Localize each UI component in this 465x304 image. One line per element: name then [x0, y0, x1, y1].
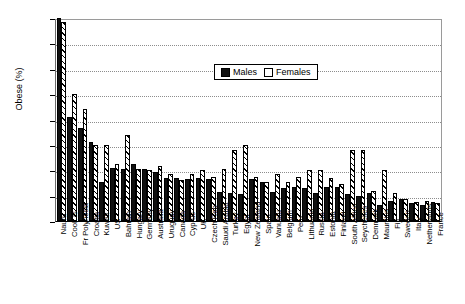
bar-group [216, 20, 227, 221]
legend-label-males: Males [233, 67, 257, 77]
plot-area [55, 19, 442, 222]
bar-group [387, 20, 398, 221]
bar-females-uk [200, 170, 205, 221]
bar-group [227, 20, 238, 221]
bar-females-us [115, 164, 120, 221]
bar-group [430, 20, 441, 221]
bar-group [88, 20, 99, 221]
bar-group [184, 20, 195, 221]
bar-group [238, 20, 249, 221]
x-tick-cell: US [109, 224, 120, 304]
chart-legend: Males Females [214, 64, 318, 80]
x-tick-label: France [437, 212, 445, 236]
x-tick-cell: Italy [410, 224, 421, 304]
x-tick-cell: Mauritius [378, 224, 389, 304]
x-tick-cell: Finland [335, 224, 346, 304]
x-tick-cell: Spain [259, 224, 270, 304]
x-tick-cell: Croatia [87, 224, 98, 304]
bar-group [302, 20, 313, 221]
x-tick-cell: Czech Rep [206, 224, 217, 304]
bar-group [270, 20, 281, 221]
bar-females-turkey [232, 150, 237, 221]
x-tick-cell: Estonia [324, 224, 335, 304]
bar-group [345, 20, 356, 221]
y-tick-mark-0 [50, 222, 55, 223]
x-tick-cell: Nauru [55, 224, 66, 304]
x-tick-cell: Vanuatu [270, 224, 281, 304]
bar-females-nauru [61, 22, 66, 221]
x-tick-cell: South Africa [345, 224, 356, 304]
bar-group [56, 20, 67, 221]
bar-group [377, 20, 388, 221]
bar-females-egypt [243, 145, 248, 221]
x-tick-cell: Australia [152, 224, 163, 304]
x-tick-cell: Canada [173, 224, 184, 304]
x-tick-cell: Bahrain [120, 224, 131, 304]
x-tick-cell: Lithuania [302, 224, 313, 304]
bar-females-peru [296, 177, 301, 221]
x-tick-cell: UK [195, 224, 206, 304]
x-tick-cell: Sweden [399, 224, 410, 304]
x-tick-cell: Egypt [238, 224, 249, 304]
bar-group [131, 20, 142, 221]
bar-females-cook-is [72, 94, 77, 221]
legend-item-males: Males [221, 67, 257, 77]
x-tick-cell: Cook Is [66, 224, 77, 304]
legend-item-females: Females [264, 67, 311, 77]
bar-group [174, 20, 185, 221]
x-tick-cell: Germany [141, 224, 152, 304]
bar-group [259, 20, 270, 221]
x-tick-cell: Fiji [388, 224, 399, 304]
bar-group [398, 20, 409, 221]
bar-group [248, 20, 259, 221]
x-tick-cell: Turkey [227, 224, 238, 304]
x-tick-cell: Hungary [130, 224, 141, 304]
bar-females-kuwait [104, 145, 109, 221]
x-tick-cell: Netherlands [421, 224, 432, 304]
bar-series-container [56, 20, 441, 221]
x-axis-tick-labels: NauruCook IsFr PolynesiaCroatiaKuwaitUSB… [55, 224, 442, 304]
obesity-bar-chart: Obese (%) 01020304050607080 Males Female… [0, 0, 465, 304]
bar-group [195, 20, 206, 221]
bar-females-fiji [393, 193, 398, 221]
x-tick-cell: Cyprus [184, 224, 195, 304]
x-tick-cell: Russia [313, 224, 324, 304]
bar-females-bahrain [125, 135, 130, 221]
bar-group [77, 20, 88, 221]
bar-group [291, 20, 302, 221]
bar-group [334, 20, 345, 221]
bar-group [206, 20, 217, 221]
legend-swatch-females-icon [264, 68, 273, 77]
bar-group [163, 20, 174, 221]
bar-group [109, 20, 120, 221]
bar-group [355, 20, 366, 221]
bar-group [313, 20, 324, 221]
bar-group [152, 20, 163, 221]
x-tick-cell: Uruguay [163, 224, 174, 304]
legend-swatch-males-icon [221, 68, 230, 77]
x-tick-cell: France [431, 224, 442, 304]
bar-females-croatia [93, 145, 98, 221]
legend-label-females: Females [276, 67, 311, 77]
x-tick-cell: Peru [292, 224, 303, 304]
bar-group [323, 20, 334, 221]
x-tick-cell: Seychelles [356, 224, 367, 304]
bar-group [366, 20, 377, 221]
y-axis-title: Obese (%) [14, 44, 24, 134]
x-tick-cell: New Zealand [249, 224, 260, 304]
bar-group [142, 20, 153, 221]
bar-group [99, 20, 110, 221]
x-tick-cell: Saudi Arabia [216, 224, 227, 304]
bar-group [409, 20, 420, 221]
bar-group [419, 20, 430, 221]
x-tick-cell: Kuwait [98, 224, 109, 304]
bar-group [280, 20, 291, 221]
x-tick-cell: Belgium [281, 224, 292, 304]
x-tick-cell: Denmark [367, 224, 378, 304]
bar-group [120, 20, 131, 221]
x-tick-cell: Fr Polynesia [77, 224, 88, 304]
bar-group [67, 20, 78, 221]
